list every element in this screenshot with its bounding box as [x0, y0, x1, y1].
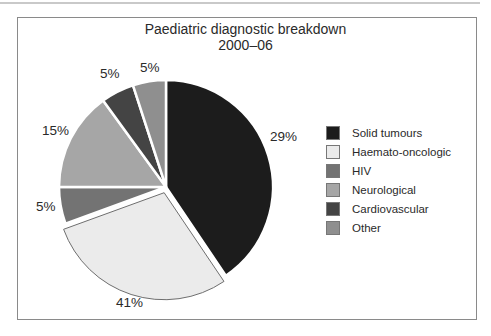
label-neurological: 15%	[42, 124, 69, 138]
legend-item-other: Other	[326, 218, 451, 237]
legend-swatch	[326, 202, 340, 216]
legend-swatch	[326, 164, 340, 178]
legend-swatch	[326, 126, 340, 140]
label-hiv: 5%	[36, 200, 56, 214]
label-haemato-oncologic: 41%	[116, 296, 143, 310]
label-solid-tumours: 29%	[270, 130, 297, 144]
legend-swatch	[326, 183, 340, 197]
legend-item-hiv: HIV	[326, 161, 451, 180]
legend-item-solid-tumours: Solid tumours	[326, 123, 451, 142]
legend-item-neurological: Neurological	[326, 180, 451, 199]
label-other: 5%	[140, 61, 160, 75]
legend-item-haemato-oncologic: Haemato-oncologic	[326, 142, 451, 161]
legend-swatch	[326, 221, 340, 235]
legend-swatch	[326, 145, 340, 159]
label-cardiovascular: 5%	[100, 67, 120, 81]
legend-item-cardiovascular: Cardiovascular	[326, 199, 451, 218]
legend: Solid tumours Haemato-oncologic HIV Neur…	[326, 123, 451, 237]
